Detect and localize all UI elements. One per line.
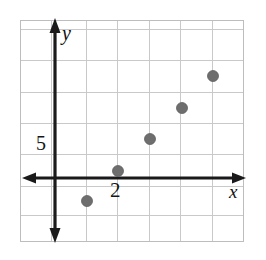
data-point: [208, 71, 219, 82]
data-point: [113, 166, 124, 177]
x-axis-tick-label-2: 2: [110, 180, 121, 201]
x-axis-label: x: [229, 182, 237, 201]
y-axis-label: y: [62, 23, 71, 43]
y-axis-tick-label-5: 5: [36, 133, 46, 153]
data-point: [82, 196, 93, 207]
data-point: [145, 134, 156, 145]
plot-canvas: [0, 0, 266, 260]
data-point: [177, 103, 188, 114]
scatter-plot-figure: y x 5 2: [0, 0, 266, 260]
